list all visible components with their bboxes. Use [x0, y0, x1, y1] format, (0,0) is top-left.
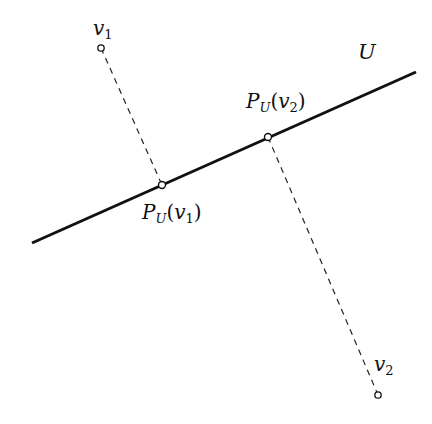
- projection-dashed-v1: [101, 48, 162, 185]
- label-v2: v2: [374, 354, 394, 377]
- label-pu-v1-arg: v: [174, 200, 185, 224]
- projection-diagram: v1 v2 U PU(v1) PU(v2): [0, 0, 432, 424]
- label-pu-v1-p: P: [142, 200, 155, 224]
- point-v1: [98, 45, 104, 51]
- label-u-text: U: [358, 40, 376, 64]
- label-pu-v2-argsub: 2: [290, 100, 298, 115]
- point-pu-v2: [265, 134, 272, 141]
- label-pu-v2-sub: U: [259, 100, 270, 115]
- label-pu-v1-sub: U: [155, 211, 166, 226]
- projection-dashed-v2: [268, 137, 378, 395]
- label-v1: v1: [93, 18, 113, 41]
- label-v1-name: v: [93, 16, 104, 40]
- label-v2-name: v: [374, 352, 385, 376]
- label-pu-v2-arg: v: [278, 89, 289, 113]
- label-v1-sub: 1: [104, 27, 112, 42]
- label-pu-v1: PU(v1): [142, 202, 202, 225]
- subspace-line: [32, 72, 416, 243]
- label-pu-v1-argsub: 1: [186, 211, 194, 226]
- label-v2-sub: 2: [385, 363, 393, 378]
- label-pu-v2-p: P: [246, 89, 259, 113]
- point-v2: [375, 392, 381, 398]
- label-subspace-u: U: [358, 42, 376, 63]
- label-pu-v2: PU(v2): [246, 91, 306, 114]
- point-pu-v1: [159, 182, 166, 189]
